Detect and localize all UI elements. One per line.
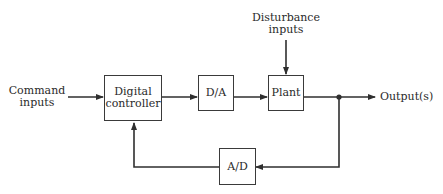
arrow-adc-to-controller (134, 123, 219, 167)
disturbance-inputs-label: Disturbance inputs (250, 12, 322, 36)
junction-dot (336, 94, 341, 99)
command-inputs-label: Command inputs (6, 85, 68, 109)
digital-controller-block: Digital controller (104, 75, 162, 121)
adc-label: A/D (227, 161, 247, 173)
plant-label: Plant (272, 87, 301, 99)
adc-block: A/D (219, 148, 256, 185)
dac-label: D/A (206, 87, 226, 99)
output-label: Output(s) (380, 91, 433, 103)
controller-label-line2: controller (106, 98, 161, 110)
command-label-line2: inputs (6, 97, 68, 109)
dac-block: D/A (198, 75, 234, 111)
disturbance-label-line2: inputs (250, 24, 322, 36)
plant-block: Plant (268, 75, 304, 111)
